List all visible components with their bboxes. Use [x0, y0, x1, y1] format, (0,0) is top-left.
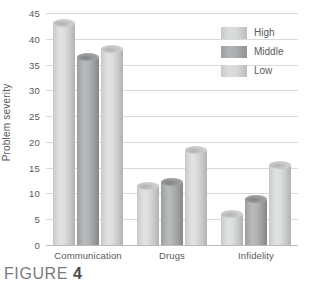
figure-caption-prefix: FIGURE	[4, 265, 68, 282]
y-tick-label: 35	[29, 59, 40, 70]
bar-body	[137, 186, 159, 245]
bar	[101, 45, 123, 245]
y-tick-label: 5	[35, 214, 40, 225]
figure-caption-number: 4	[73, 265, 83, 282]
gridline	[46, 245, 298, 246]
bar	[269, 161, 291, 245]
bar	[221, 210, 243, 245]
bar-body	[221, 214, 243, 245]
bar-cap	[185, 146, 207, 154]
bar-cap	[137, 182, 159, 190]
bar-body	[269, 165, 291, 245]
legend-swatch	[221, 65, 247, 77]
y-tick-label: 0	[35, 240, 40, 251]
bar	[77, 53, 99, 245]
bar-cap	[161, 178, 183, 186]
x-axis-label: Drugs	[159, 250, 185, 261]
bar	[137, 182, 159, 245]
y-tick-label: 10	[29, 188, 40, 199]
figure-caption: FIGURE 4	[4, 264, 83, 284]
legend-label: Middle	[254, 44, 283, 60]
bar-body	[53, 23, 75, 245]
legend-item: Low	[221, 63, 313, 80]
bar-body	[101, 49, 123, 245]
legend-swatch	[221, 27, 247, 39]
bar-cap	[245, 195, 267, 203]
y-tick-label: 25	[29, 111, 40, 122]
bar-body	[185, 150, 207, 245]
legend-swatch	[221, 46, 247, 58]
y-tick-label: 45	[29, 8, 40, 19]
x-axis-labels: CommunicationDrugsInfidelity	[46, 250, 298, 266]
bar	[185, 146, 207, 245]
bar	[161, 178, 183, 245]
bar-group	[46, 13, 130, 245]
y-tick-label: 15	[29, 162, 40, 173]
legend: HighMiddleLow	[221, 25, 313, 82]
bar	[53, 19, 75, 245]
bar-body	[245, 199, 267, 245]
y-tick-label: 30	[29, 85, 40, 96]
legend-label: Low	[254, 63, 272, 79]
x-axis-label: Communication	[54, 250, 121, 261]
bar-body	[77, 57, 99, 245]
bar	[245, 195, 267, 245]
figure-container: Problem severity 051015202530354045 Comm…	[0, 0, 314, 287]
bar-body	[161, 182, 183, 245]
bar-cap	[77, 53, 99, 61]
legend-label: High	[254, 25, 275, 41]
y-tick-label: 40	[29, 33, 40, 44]
legend-item: High	[221, 25, 313, 42]
bar-group	[130, 13, 214, 245]
x-axis-label: Infidelity	[238, 250, 274, 261]
y-axis-ticks: 051015202530354045	[0, 0, 46, 258]
y-tick-label: 20	[29, 136, 40, 147]
legend-item: Middle	[221, 44, 313, 61]
